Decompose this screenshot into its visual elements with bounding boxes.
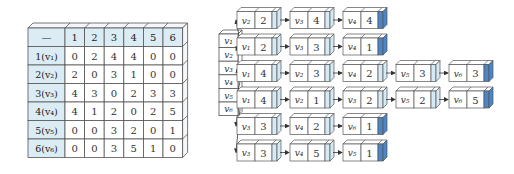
node-weight-label: 4 [260, 95, 266, 106]
node-weight-label: 1 [366, 121, 372, 132]
matrix-cell-value: 5 [170, 106, 176, 117]
matrix-cell-value: 0 [72, 143, 78, 154]
node-weight-label: 1 [366, 42, 372, 53]
node-vertex-label: v₆ [454, 95, 463, 105]
vertex-array-label: v₅ [224, 91, 233, 101]
matrix-header-label: 2 [91, 32, 97, 43]
matrix-cell-value: 1 [130, 69, 136, 80]
matrix-cell-value: 4 [72, 106, 78, 117]
adjacency-lists: v₂2v₃4v₄4v₁2v₃3v₄1v₁4v₂3v₄2v₅3v₆3v₁4v₂1v… [237, 8, 493, 162]
matrix-cell-value: 3 [111, 143, 117, 154]
list-node: v₄4 [343, 8, 387, 29]
node-weight-label: 4 [366, 15, 372, 26]
matrix-header-label: 1 [72, 32, 78, 43]
matrix-header-label: 4 [130, 32, 136, 43]
matrix-header-label: 6 [170, 32, 176, 43]
matrix-cell-value: 0 [91, 125, 97, 136]
list-node: v₄1 [343, 34, 387, 55]
node-vertex-label: v₄ [348, 42, 357, 52]
node-weight-label: 2 [260, 15, 266, 26]
list-node: v₃3 [237, 114, 281, 135]
node-weight-label: 1 [313, 95, 319, 106]
matrix-cell-value: 3 [170, 88, 176, 99]
matrix-cell-value: 4 [130, 51, 136, 62]
matrix-cell-value: 2 [72, 69, 78, 80]
list-node: v₂3 [290, 61, 334, 82]
node-weight-label: 5 [313, 148, 319, 159]
node-vertex-label: v₁ [242, 69, 251, 79]
node-weight-label: 3 [419, 68, 425, 79]
next-pointer-cell [325, 12, 330, 29]
next-pointer-cell [325, 38, 330, 55]
next-pointer-cell [272, 118, 277, 135]
list-node: v₅3 [396, 61, 440, 82]
matrix-header-label: 3 [111, 32, 117, 43]
matrix-cell-value: 0 [111, 88, 117, 99]
list-node: v₆1 [343, 114, 387, 135]
list-node: v₄5 [290, 140, 334, 161]
list-node: v₅2 [396, 87, 440, 108]
next-pointer-cell [325, 144, 330, 161]
node-vertex-label: v₄ [295, 122, 304, 132]
list-node: v₅1 [343, 140, 387, 161]
next-pointer-cell [272, 144, 277, 161]
node-vertex-label: v₁ [242, 42, 251, 52]
node-weight-label: 2 [366, 68, 372, 79]
matrix-cell-value: 0 [170, 51, 176, 62]
null-pointer-cell [378, 12, 383, 29]
null-pointer-cell [484, 91, 489, 108]
node-vertex-label: v₂ [295, 95, 304, 105]
matrix-cell-value: 0 [150, 125, 156, 136]
list-node: v₂2 [237, 8, 281, 29]
matrix-row-label: 4(v₄) [35, 106, 58, 117]
list-node: v₃4 [290, 8, 334, 29]
matrix-cell-value: 0 [170, 143, 176, 154]
matrix-header-label: — [42, 32, 52, 43]
node-vertex-label: v₄ [295, 148, 304, 158]
null-pointer-cell [378, 144, 383, 161]
list-node: v₆3 [449, 61, 493, 82]
list-node: v₃3 [237, 140, 281, 161]
matrix-cell-value: 0 [91, 143, 97, 154]
node-vertex-label: v₂ [242, 16, 251, 26]
node-weight-label: 5 [472, 95, 478, 106]
matrix-cell-value: 0 [150, 51, 156, 62]
matrix-cell-value: 0 [170, 69, 176, 80]
null-pointer-cell [484, 65, 489, 82]
matrix-side-face [183, 23, 188, 158]
list-node: v₄2 [343, 61, 387, 82]
next-pointer-cell [272, 38, 277, 55]
node-weight-label: 3 [260, 148, 266, 159]
node-weight-label: 2 [366, 95, 372, 106]
matrix-cell-value: 2 [91, 51, 97, 62]
matrix-cell-value: 3 [150, 88, 156, 99]
next-pointer-cell [431, 65, 436, 82]
list-node: v₃2 [343, 87, 387, 108]
graph-storage-diagram: —1234561(v₁)0244002(v₂)2031003(v₃)430233… [0, 0, 514, 174]
list-node: v₄2 [290, 114, 334, 135]
node-vertex-label: v₃ [295, 42, 304, 52]
node-weight-label: 3 [313, 68, 319, 79]
next-pointer-cell [378, 91, 383, 108]
matrix-cell-value: 2 [111, 106, 117, 117]
next-pointer-cell [325, 91, 330, 108]
node-vertex-label: v₆ [348, 122, 357, 132]
node-weight-label: 2 [260, 42, 266, 53]
matrix-header-label: 5 [150, 32, 156, 43]
node-vertex-label: v₃ [242, 122, 251, 132]
node-vertex-label: v₃ [295, 16, 304, 26]
matrix-cell-value: 2 [130, 125, 136, 136]
next-pointer-cell [272, 65, 277, 82]
node-vertex-label: v₅ [401, 69, 410, 79]
next-pointer-cell [272, 91, 277, 108]
matrix-cell-value: 0 [72, 51, 78, 62]
list-node: v₃3 [290, 34, 334, 55]
vertex-array-label: v₁ [224, 36, 233, 46]
matrix-cell-value: 3 [111, 69, 117, 80]
vertex-array-label: v₆ [224, 104, 233, 114]
node-vertex-label: v₁ [242, 95, 251, 105]
matrix-cell-value: 3 [111, 125, 117, 136]
list-node: v₆5 [449, 87, 493, 108]
vertex-array-label: v₂ [224, 50, 233, 60]
null-pointer-cell [378, 38, 383, 55]
